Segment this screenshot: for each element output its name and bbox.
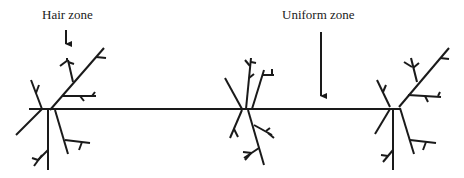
root-hair-diagram: Hair zone Uniform zone bbox=[0, 0, 464, 178]
branch-cluster-middle bbox=[225, 58, 274, 165]
diagram-drawing bbox=[0, 0, 464, 178]
